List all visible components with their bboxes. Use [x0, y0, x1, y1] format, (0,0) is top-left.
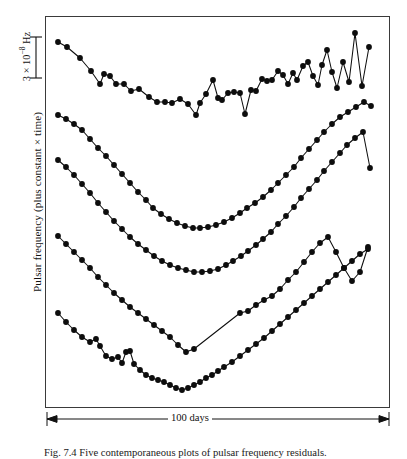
data-point — [253, 302, 259, 308]
data-point — [280, 72, 286, 78]
data-point — [210, 77, 216, 83]
data-point — [298, 155, 304, 161]
data-point — [352, 30, 358, 36]
data-point — [341, 265, 347, 271]
data-point — [269, 77, 275, 83]
data-point — [285, 277, 291, 283]
data-point — [261, 335, 267, 341]
data-point — [361, 99, 367, 105]
data-point — [185, 385, 191, 391]
data-point — [103, 209, 109, 215]
data-point — [329, 121, 335, 127]
x-scalebar-label: 100 days — [168, 412, 212, 423]
data-point — [203, 91, 209, 97]
data-point — [334, 85, 340, 91]
data-point — [151, 322, 157, 328]
data-point — [314, 137, 320, 143]
data-point — [182, 223, 188, 229]
data-point — [245, 248, 251, 254]
scalebar-unit — [21, 44, 32, 47]
data-point — [121, 81, 127, 87]
data-point — [55, 39, 61, 45]
scalebar-exponent: −8 — [18, 47, 27, 55]
data-point — [293, 307, 299, 313]
data-point — [309, 249, 315, 255]
data-point — [97, 343, 103, 349]
data-point — [285, 314, 291, 320]
data-point — [158, 211, 164, 217]
scalebar-unit-text: Hz — [21, 32, 32, 44]
data-point — [151, 253, 157, 259]
data-point — [301, 259, 307, 265]
data-point — [337, 150, 343, 156]
scalebar-multiplier: × 10 — [21, 54, 32, 75]
data-point — [253, 88, 259, 94]
vertical-scalebar — [30, 37, 42, 78]
data-point — [268, 229, 274, 235]
scalebar-value: 3 — [21, 76, 32, 81]
data-point — [321, 129, 327, 135]
data-point — [111, 290, 117, 296]
data-point — [183, 267, 189, 273]
data-point — [143, 372, 149, 378]
data-point — [63, 116, 69, 122]
data-point — [55, 112, 61, 118]
data-point — [264, 78, 270, 84]
data-point — [366, 44, 372, 50]
data-point — [277, 321, 283, 327]
data-point — [79, 257, 85, 263]
data-point — [337, 114, 343, 120]
data-point — [314, 177, 320, 183]
data-point — [367, 165, 373, 171]
data-point — [219, 97, 225, 103]
data-point — [260, 236, 266, 242]
data-point — [360, 129, 366, 135]
data-point — [63, 241, 69, 247]
data-point — [345, 109, 351, 115]
data-point — [103, 353, 109, 359]
data-point — [115, 354, 121, 360]
data-point — [245, 347, 251, 353]
data-point — [301, 300, 307, 306]
data-point — [283, 213, 289, 219]
data-point — [63, 319, 69, 325]
data-point — [215, 266, 221, 272]
data-point — [193, 112, 199, 118]
data-point — [353, 104, 359, 110]
data-point — [368, 103, 374, 109]
data-point — [324, 47, 330, 53]
data-point — [291, 164, 297, 170]
data-point — [223, 262, 229, 268]
data-point — [131, 361, 137, 367]
data-point — [161, 379, 167, 385]
data-point — [119, 297, 125, 303]
data-point — [63, 164, 69, 170]
data-point — [209, 372, 215, 378]
data-point — [143, 197, 149, 203]
data-point — [205, 224, 211, 230]
data-point — [306, 146, 312, 152]
data-point — [191, 269, 197, 275]
data-point — [329, 159, 335, 165]
data-point — [277, 286, 283, 292]
data-point — [169, 100, 175, 106]
y-axis-label: Pulsar frequency (plus constant × time) — [31, 97, 43, 307]
data-point — [162, 99, 168, 105]
data-point — [242, 111, 248, 117]
data-point — [253, 341, 259, 347]
data-point — [93, 336, 99, 342]
data-point — [175, 342, 181, 348]
data-point — [357, 251, 363, 257]
data-point — [79, 181, 85, 187]
data-point — [321, 168, 327, 174]
data-point — [149, 375, 155, 381]
data-point — [244, 205, 250, 211]
data-point — [229, 359, 235, 365]
data-point — [300, 63, 306, 69]
data-point — [237, 90, 243, 96]
data-point — [95, 200, 101, 206]
data-point — [237, 310, 243, 316]
data-point — [103, 282, 109, 288]
data-point — [248, 87, 254, 93]
